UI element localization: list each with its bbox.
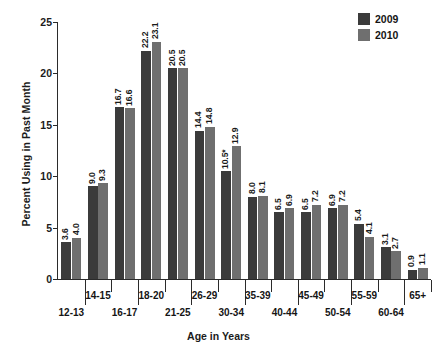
bar [115, 107, 125, 279]
x-axis-tickmark [378, 280, 379, 292]
legend-label: 2009 [375, 13, 398, 25]
bar-value-label: 4.1 [364, 223, 374, 235]
bar-value-label: 20.5 [177, 49, 187, 65]
bar-value-label: 6.9 [284, 194, 294, 206]
bar [98, 183, 108, 279]
bar-value-label: 4.0 [71, 224, 81, 236]
x-axis-ticklabel: 50-54 [325, 307, 351, 318]
bar-group: 10.5*12.9 [218, 22, 245, 279]
bar-group: 9.09.3 [85, 22, 112, 279]
bar-value-label: 14.4 [193, 112, 203, 128]
bar-value-label: 7.2 [310, 191, 320, 203]
bar [312, 205, 322, 279]
x-axis-ticklabel: 14-15 [85, 290, 111, 301]
x-axis-ticklabel: 45-49 [298, 290, 324, 301]
bar-group: 0.91.1 [404, 22, 431, 279]
bar-value-label: 8.0 [247, 183, 257, 195]
bar-group: 5.44.1 [351, 22, 378, 279]
bar-value-label: 6.5 [273, 198, 283, 210]
x-axis-ticklabel: 40-44 [272, 307, 298, 318]
bar [391, 251, 401, 279]
bar [72, 238, 82, 279]
bar-group: 16.716.6 [111, 22, 138, 279]
bar-value-label: 20.5 [167, 49, 177, 65]
bar [125, 108, 135, 279]
bar [408, 270, 418, 279]
x-axis-ticklabel: 65+ [409, 290, 426, 301]
bar [232, 146, 242, 279]
bar-value-label: 3.1 [380, 233, 390, 245]
x-axis-ticklabel: 35-39 [245, 290, 271, 301]
bar [195, 131, 205, 279]
bar-value-label: 5.4 [353, 209, 363, 221]
bar [381, 247, 391, 279]
bar [178, 68, 188, 279]
bar-group: 6.97.2 [324, 22, 351, 279]
bar-value-label: 6.9 [327, 194, 337, 206]
bar-value-label: 12.9 [230, 128, 240, 144]
bar-value-label: 22.2 [140, 32, 150, 48]
bar [88, 186, 98, 279]
bar-value-label: 1.1 [417, 254, 427, 266]
bar [338, 205, 348, 279]
legend-color-swatch [358, 13, 370, 25]
bar [365, 237, 375, 279]
bar-group: 8.08.1 [245, 22, 272, 279]
x-axis-ticklabel: 30-34 [218, 307, 244, 318]
bar [418, 268, 428, 279]
x-axis-ticklabel: 55-59 [352, 290, 378, 301]
legend: 20092010 [358, 12, 398, 44]
bar [258, 196, 268, 279]
legend-label: 2010 [375, 29, 398, 41]
x-axis-ticklabel: 16-17 [112, 307, 138, 318]
bar [274, 212, 284, 279]
x-axis-tickmark [165, 280, 166, 292]
bar-group: 22.223.1 [138, 22, 165, 279]
bar-chart: Percent Using in Past Month 0510152025 3… [0, 0, 437, 354]
x-axis-ticklabel: 12-13 [59, 307, 85, 318]
y-axis-ticklabel: 5 [28, 222, 52, 234]
bar [328, 208, 338, 279]
bar-value-label: 6.5 [300, 198, 310, 210]
x-axis-ticklabel: 26-29 [192, 290, 218, 301]
bar-group: 6.56.9 [271, 22, 298, 279]
bar-value-label: 3.6 [60, 228, 70, 240]
bar [168, 68, 178, 279]
bar [205, 127, 215, 279]
bar-value-label: 16.6 [124, 90, 134, 106]
bar-group: 3.12.7 [378, 22, 405, 279]
bar-group: 3.64.0 [58, 22, 85, 279]
x-axis-tickmark [431, 280, 432, 292]
x-axis-tickmark [271, 280, 272, 292]
x-axis-tickmark [404, 280, 405, 305]
bar-group: 6.57.2 [298, 22, 325, 279]
bar [248, 197, 258, 279]
x-axis-title: Age in Years [0, 330, 437, 342]
x-axis-tickmark [218, 280, 219, 292]
bar-value-label: 7.2 [337, 191, 347, 203]
bar-group: 14.414.8 [191, 22, 218, 279]
bar [152, 42, 162, 279]
y-axis-ticklabel: 25 [28, 16, 52, 28]
plot-area: 3.64.09.09.316.716.622.223.120.520.514.4… [58, 22, 431, 279]
y-axis-ticklabel: 10 [28, 170, 52, 182]
bar [61, 242, 71, 279]
bar-value-label: 9.3 [97, 169, 107, 181]
bar-value-label: 9.0 [87, 172, 97, 184]
bar-value-label: 8.1 [257, 182, 267, 194]
x-axis-ticklabel: 60-64 [378, 307, 404, 318]
bar [354, 224, 364, 280]
x-axis-ticklabel: 18-20 [138, 290, 164, 301]
bar-value-label: 0.9 [406, 256, 416, 268]
bar-value-label: 16.7 [113, 89, 123, 105]
x-axis-tickmark [111, 280, 112, 292]
legend-color-swatch [358, 29, 370, 41]
y-axis-ticklabel: 20 [28, 67, 52, 79]
bar [141, 51, 151, 279]
bar-value-label: 14.8 [204, 108, 214, 124]
bar [285, 208, 295, 279]
y-axis-ticklabel: 0 [28, 273, 52, 285]
bar [301, 212, 311, 279]
bar [221, 171, 231, 279]
legend-item: 2010 [358, 28, 398, 42]
